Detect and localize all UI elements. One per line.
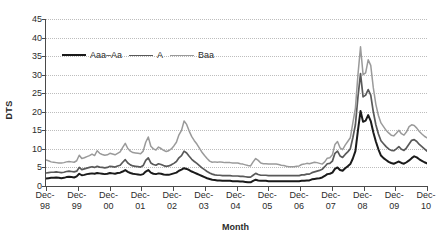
legend-item: Baa (170, 50, 214, 60)
x-axis-tick-labels: Dec-98Dec-99Dec-00Dec-01Dec-02Dec-03Dec-… (45, 190, 426, 218)
y-tick-label: 20 (20, 107, 42, 117)
y-tick-label: 30 (20, 70, 42, 80)
y-axis-tick-labels: 051015202530354045 (20, 12, 42, 194)
chart-legend: Aaa–AaABaa (62, 48, 221, 62)
series-line-aaa-aa (46, 111, 427, 182)
series-line-a (46, 74, 427, 178)
y-tick-label: 40 (20, 33, 42, 43)
legend-line-swatch (129, 55, 153, 56)
y-tick-label: 10 (20, 144, 42, 154)
y-axis-title-text: DTS (4, 101, 14, 120)
y-tick-label: 25 (20, 88, 42, 98)
legend-label: Baa (198, 50, 214, 60)
legend-label: Aaa–Aa (90, 50, 122, 60)
y-axis-title: DTS (0, 85, 18, 135)
series-line-baa (46, 47, 427, 167)
x-tick-label: Dec-10 (404, 190, 443, 212)
y-tick-label: 45 (20, 14, 42, 24)
y-tick-label: 5 (20, 162, 42, 172)
x-axis-title: Month (45, 222, 426, 232)
legend-line-swatch (62, 54, 86, 56)
x-tick-label-line2: 10 (404, 201, 443, 212)
legend-item: Aaa–Aa (62, 50, 122, 60)
y-tick-label: 35 (20, 51, 42, 61)
chart-container: DTS 051015202530354045 Dec-98Dec-99Dec-0… (0, 0, 443, 245)
plot-area (45, 19, 427, 187)
x-tick-label-line1: Dec- (404, 190, 443, 201)
legend-label: A (157, 50, 163, 60)
y-tick-label: 15 (20, 125, 42, 135)
legend-item: A (129, 50, 163, 60)
series-lines (46, 19, 427, 186)
legend-line-swatch (170, 55, 194, 56)
